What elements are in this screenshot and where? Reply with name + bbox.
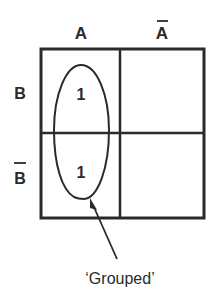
grouped-annotation: ‘Grouped’ bbox=[85, 270, 154, 287]
column-header-a: A bbox=[75, 24, 87, 43]
karnaugh-map-diagram: A A B B 1 1 ‘Grouped’ bbox=[0, 0, 211, 298]
annotation-arrow-line bbox=[93, 205, 117, 259]
annotation-arrow-head-icon bbox=[90, 198, 97, 210]
cell-a-bbar-value: 1 bbox=[77, 164, 86, 181]
column-header-a-bar: A bbox=[156, 24, 168, 43]
row-header-b: B bbox=[14, 85, 26, 102]
row-header-b-bar: B bbox=[14, 170, 26, 187]
cell-a-b-value: 1 bbox=[77, 86, 86, 103]
